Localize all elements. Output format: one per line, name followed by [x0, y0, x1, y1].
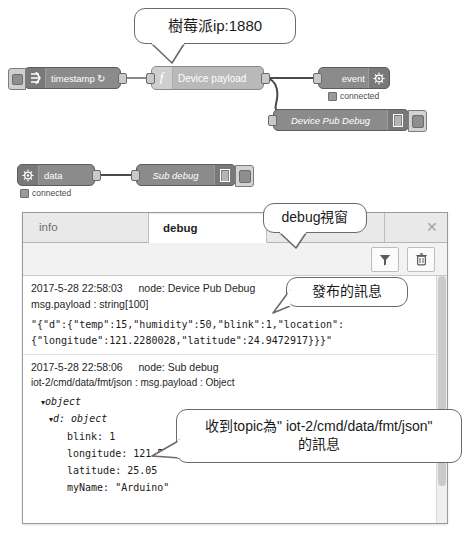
node-sub-debug-label: Sub debug [137, 170, 214, 181]
debug-bars-icon [387, 110, 408, 130]
debug-sidebar-panel: info debug d ✕ [22, 212, 448, 524]
node-sub-debug-toggle-button[interactable] [235, 165, 254, 187]
node-sub-debug[interactable]: Sub debug [136, 164, 236, 186]
node-device-payload[interactable]: ƒ Device payload [151, 66, 264, 90]
node-timestamp[interactable]: timestamp ↻ [24, 67, 121, 89]
node-data-label: data [39, 170, 94, 181]
inject-node-button[interactable] [8, 68, 26, 90]
node-device-pub-debug-toggle-square [412, 115, 424, 128]
node-event-status-label: connected [340, 91, 379, 101]
sidebar-tab-bar: info debug d ✕ [23, 213, 447, 243]
tab-info-label: info [39, 221, 58, 233]
callout-received-message-line-2: 的訊息 [298, 436, 340, 454]
function-f-icon: ƒ [152, 67, 173, 89]
callout-debug-window: debug視窗 [263, 203, 367, 233]
node-data[interactable]: data [17, 164, 95, 186]
flow-editor-canvas: 樹莓派ip:1880 timestamp ↻ [0, 0, 473, 534]
debug-message-body-line-1: "{"d":{"temp":15,"humidity":50,"blink":1… [31, 313, 439, 333]
callout-published-message-tail [272, 289, 312, 317]
tree-row-label: blink: 1 [67, 431, 115, 442]
node-event-label: event [319, 73, 368, 84]
callout-received-message: 收到topic為" iot-2/cmd/data/fmt/json" 的訊息 [176, 409, 462, 463]
node-device-payload-input-port[interactable] [146, 73, 155, 84]
callout-debug-window-tail [278, 232, 324, 250]
debug-message-node: node: Sub debug [139, 361, 219, 373]
filter-funnel-icon[interactable] [371, 247, 399, 272]
tree-row-label: object [45, 396, 81, 407]
node-data-output-port[interactable] [92, 170, 101, 181]
trash-can-icon[interactable] [407, 247, 435, 272]
callout-debug-window-text: debug視窗 [282, 209, 349, 227]
callout-raspberry-pi-ip-tail [150, 43, 210, 65]
node-data-status-dot [20, 189, 29, 198]
node-device-pub-debug-toggle-button[interactable] [408, 110, 427, 132]
tree-row-label: d: object [53, 413, 107, 424]
tree-row-label: latitude: 25.05 [67, 465, 157, 476]
tab-info[interactable]: info [23, 213, 149, 242]
ibm-watson-iot-icon [368, 68, 389, 88]
callout-raspberry-pi-ip: 樹莓派ip:1880 [134, 8, 296, 44]
debug-message-property: iot-2/cmd/data/fmt/json : msg.payload : … [31, 375, 439, 391]
tree-row-label: myName: "Arduino" [67, 482, 169, 493]
node-data-status: connected [20, 188, 71, 198]
node-device-pub-debug-input-port[interactable] [268, 115, 277, 126]
node-timestamp-output-port[interactable] [118, 73, 127, 84]
inject-arrow-icon [25, 68, 46, 88]
ibm-watson-iot-icon [18, 165, 39, 185]
tab-debug-label: debug [163, 222, 198, 234]
node-event[interactable]: event [318, 67, 390, 89]
debug-bars-icon [214, 165, 235, 185]
node-event-status: connected [328, 91, 379, 101]
node-device-pub-debug[interactable]: Device Pub Debug [273, 109, 409, 131]
debug-message-node: node: Device Pub Debug [139, 282, 256, 294]
node-sub-debug-toggle-square [239, 170, 251, 183]
node-data-status-label: connected [32, 188, 71, 198]
debug-message-header: 2017-5-28 22:58:06 node: Sub debug [31, 359, 439, 375]
node-event-status-dot [328, 92, 337, 101]
node-event-input-port[interactable] [313, 73, 322, 84]
node-device-payload-output-port[interactable] [261, 73, 270, 84]
inject-node-button-square [12, 74, 23, 85]
debug-message-list[interactable]: 2017-5-28 22:58:03 node: Device Pub Debu… [23, 276, 447, 523]
debug-message-timestamp: 2017-5-28 22:58:06 [31, 361, 123, 373]
tree-row: latitude: 25.05 [31, 462, 431, 479]
node-device-payload-label: Device payload [173, 73, 263, 84]
callout-received-message-tail [150, 438, 194, 464]
debug-toolbar [23, 243, 447, 276]
close-icon-glyph: ✕ [426, 219, 438, 235]
callout-received-message-line-1: 收到topic為" iot-2/cmd/data/fmt/json" [205, 418, 432, 436]
node-sub-debug-input-port[interactable] [131, 170, 140, 181]
callout-published-message-text: 發布的訊息 [312, 283, 382, 301]
tab-debug[interactable]: debug [149, 214, 267, 243]
debug-message-body-line-2: {"longitude":121.2280028,"latitude":24.9… [31, 333, 439, 349]
debug-panel-scrollbar[interactable] [436, 276, 447, 523]
tree-row: myName: "Arduino" [31, 479, 431, 496]
debug-message-timestamp: 2017-5-28 22:58:03 [31, 282, 123, 294]
callout-raspberry-pi-ip-text: 樹莓派ip:1880 [168, 16, 262, 35]
node-device-pub-debug-label: Device Pub Debug [274, 115, 387, 126]
tree-row[interactable]: ▾object [31, 393, 431, 410]
close-icon[interactable]: ✕ [417, 213, 447, 242]
node-timestamp-label: timestamp ↻ [46, 73, 120, 84]
